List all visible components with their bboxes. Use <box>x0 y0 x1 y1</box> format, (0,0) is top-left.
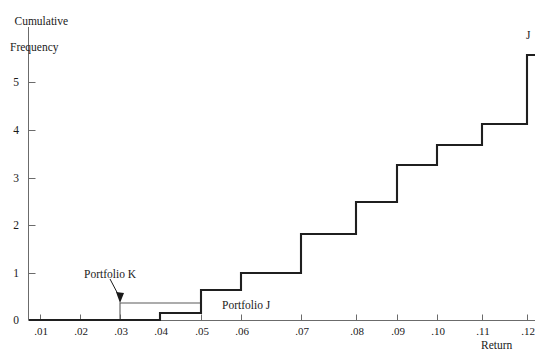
portfolio-k-arrow <box>110 279 124 303</box>
chart-canvas: Cumulative Frequency Return 0 1 2 3 4 5 … <box>0 0 542 357</box>
x-tick-label-12: .12 <box>513 325 542 337</box>
x-tick-label-03: .03 <box>106 325 136 337</box>
x-tick-label-04: .04 <box>146 325 176 337</box>
curve-portfolio-k <box>29 290 201 320</box>
y-tick-label-3: 3 <box>5 172 19 184</box>
curve-portfolio-j <box>29 55 535 320</box>
portfolio-j-label: Portfolio J <box>222 299 270 311</box>
portfolio-k-label: Portfolio K <box>84 268 136 280</box>
x-tick-label-06: .06 <box>227 325 257 337</box>
x-tick-label-11: .11 <box>468 325 498 337</box>
x-axis-title: Return <box>481 339 512 352</box>
cumulative-frequency-plot <box>0 0 542 357</box>
x-tick-label-07: .07 <box>287 325 317 337</box>
curve-j-end-label: J <box>526 29 530 41</box>
x-tick-label-09: .09 <box>383 325 413 337</box>
y-axis-title-line1: Cumulative <box>15 15 69 27</box>
x-tick-label-08: .08 <box>342 325 372 337</box>
x-tick-label-01: .01 <box>26 325 56 337</box>
x-tick-label-05: .05 <box>187 325 217 337</box>
y-tick-label-1: 1 <box>5 267 19 279</box>
x-tick-label-10: .10 <box>423 325 453 337</box>
y-axis-title: Cumulative Frequency <box>3 2 68 80</box>
y-tick-label-5: 5 <box>5 76 19 88</box>
y-axis-ticks <box>29 83 36 274</box>
y-tick-label-4: 4 <box>5 124 19 136</box>
y-tick-label-0: 0 <box>5 314 19 326</box>
y-axis-title-line2: Frequency <box>3 41 68 54</box>
x-tick-label-02: .02 <box>66 325 96 337</box>
y-tick-label-2: 2 <box>5 219 19 231</box>
